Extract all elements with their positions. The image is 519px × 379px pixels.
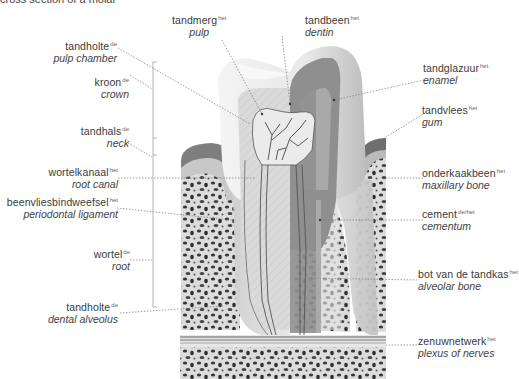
label-tandholte-pulp-chamber: tandholtede pulp chamber <box>53 40 117 64</box>
label-beenvliesbindweefsel-periodontal-ligament: beenvliesbindweefselhet periodontal liga… <box>7 196 118 220</box>
label-tandholte-dental-alveolus: tandholtede dental alveolus <box>48 301 118 325</box>
label-zenuwnetwerk-plexus-of-nerves: zenuwnetwerkhet plexus of nerves <box>418 335 496 359</box>
label-tandhals-neck: tandhalsde neck <box>81 125 129 149</box>
pulp-chamber <box>252 108 315 165</box>
label-bot-van-de-tandkas-alveolar-bone: bot van de tandkashet alveolar bone <box>418 268 518 292</box>
label-tandvlees-gum: tandvleeshet gum <box>422 104 477 128</box>
label-tandglazuur-enamel: tandglazuurhet enamel <box>423 62 488 86</box>
jaw-bone <box>180 335 386 379</box>
label-wortel-root: wortelde root <box>94 248 130 272</box>
label-kroon-crown: kroonde crown <box>95 76 129 100</box>
section-brackets <box>153 62 157 307</box>
label-cement-cementum: cementde/het cementum <box>422 208 475 232</box>
label-tandbeen-dentin: tandbeenhet dentin <box>305 14 359 38</box>
label-wortelkanaal-root-canal: wortelkanaalhet root canal <box>49 166 119 190</box>
label-onderkaakbeen-maxillary-bone: onderkaakbeenhet maxillary bone <box>422 167 505 191</box>
label-tandmerg-pulp: tandmerghet pulp <box>172 14 227 38</box>
